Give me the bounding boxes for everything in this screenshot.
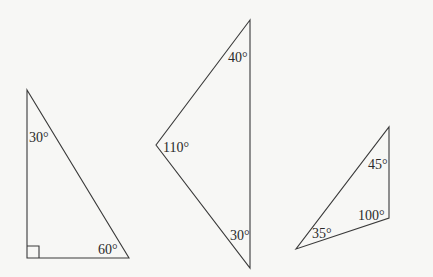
- angle-label-35: 35°: [312, 226, 332, 241]
- angle-label-100: 100°: [358, 208, 385, 223]
- small-triangle-outline: [296, 127, 389, 249]
- triangles-diagram: 30° 60° 40° 110° 30° 45° 100° 35°: [0, 0, 433, 277]
- angle-label-30: 30°: [29, 130, 49, 145]
- right-angle-marker-icon: [27, 246, 39, 258]
- angle-label-110: 110°: [163, 140, 189, 155]
- angle-label-60: 60°: [98, 242, 118, 257]
- small-triangle: 45° 100° 35°: [296, 127, 389, 249]
- angle-label-45: 45°: [368, 157, 388, 172]
- angle-label-30-bottom: 30°: [230, 228, 250, 243]
- right-triangle-outline: [27, 90, 129, 258]
- obtuse-triangle: 40° 110° 30°: [156, 20, 250, 268]
- right-triangle: 30° 60°: [27, 90, 129, 258]
- angle-label-40: 40°: [228, 50, 248, 65]
